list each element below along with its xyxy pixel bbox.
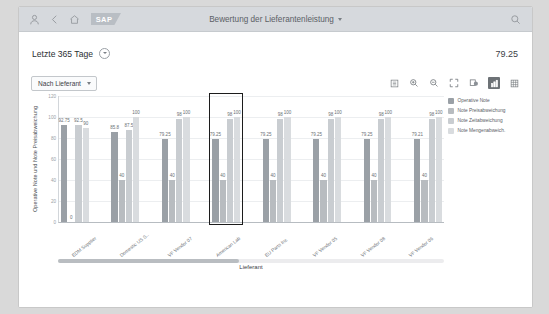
bar-value-label: 100 (334, 110, 342, 115)
legend-item[interactable]: Note Mengenabweich. (448, 128, 520, 134)
bar[interactable]: 79.25 (263, 139, 269, 222)
bar[interactable]: 40 (169, 180, 175, 222)
bar[interactable]: 40 (270, 180, 276, 222)
bar[interactable]: 90 (83, 128, 89, 223)
bar[interactable]: 40 (421, 180, 427, 222)
bar-value-label: 92.75 (58, 118, 69, 123)
bar-value-label: 79.25 (260, 132, 271, 137)
bar-value-label: 40 (220, 173, 225, 178)
bar-group[interactable]: 79.254098100 (162, 96, 190, 222)
bar[interactable]: 98 (429, 119, 435, 222)
bar[interactable]: 79.21 (414, 139, 420, 222)
chart-scrollbar-track[interactable] (58, 259, 444, 263)
bar[interactable]: 98 (277, 119, 283, 222)
bar-value-label: 40 (371, 173, 376, 178)
bar-value-label: 0 (70, 215, 73, 220)
drilldown-icon[interactable] (468, 77, 480, 89)
x-tick-label: EU Parts Inc (263, 237, 287, 258)
bar-value-label: 90 (83, 121, 88, 126)
bar[interactable]: 79.25 (313, 139, 319, 222)
dimension-dropdown[interactable]: Nach Lieferant (31, 76, 97, 91)
bar-value-label: 98 (278, 112, 283, 117)
bar-groups: 92.75092.59085.84087.510079.25409810079.… (59, 96, 444, 222)
bar[interactable]: 98 (227, 119, 233, 222)
bar[interactable]: 79.25 (162, 139, 168, 222)
sap-logo-text: SAP (96, 15, 113, 24)
bar[interactable]: 92.75 (61, 125, 67, 222)
home-icon[interactable] (69, 14, 80, 25)
x-tick-label: VF Vendor 05 (312, 236, 338, 258)
legend-swatch (448, 128, 454, 134)
legend-swatch (448, 108, 454, 114)
bar[interactable]: 98 (176, 119, 182, 222)
bar-value-label: 100 (284, 110, 292, 115)
bar[interactable]: 100 (183, 117, 189, 222)
bar[interactable]: 92.5 (75, 125, 81, 222)
bar-value-label: 87.5 (125, 123, 134, 128)
sap-logo[interactable]: SAP (91, 13, 121, 25)
x-axis-labels: EDM SupplierDomestic US S..VF Vendor 07A… (58, 224, 444, 258)
bar-value-label: 100 (435, 110, 443, 115)
zoom-in-icon[interactable] (408, 77, 420, 89)
bar[interactable]: 40 (320, 180, 326, 222)
bar[interactable]: 79.25 (364, 139, 370, 222)
legend-list-icon[interactable] (388, 77, 400, 89)
zoom-out-icon[interactable] (428, 77, 440, 89)
bar[interactable]: 85.8 (111, 132, 117, 222)
kpi-value: 79.25 (495, 49, 518, 59)
bar-value-label: 100 (233, 110, 241, 115)
x-axis-title: Lieferant (58, 264, 444, 270)
bar-value-label: 100 (183, 110, 191, 115)
bar[interactable]: 100 (335, 117, 341, 222)
table-view-icon[interactable] (508, 77, 520, 89)
bar-value-label: 98 (227, 112, 232, 117)
legend-item[interactable]: Note Preisabweichung (448, 108, 520, 114)
bar[interactable]: 100 (385, 117, 391, 222)
bar-value-label: 79.21 (412, 132, 423, 137)
plot-area: 92.75092.59085.84087.510079.25409810079.… (58, 96, 444, 223)
person-icon[interactable] (29, 14, 40, 25)
bar[interactable]: 79.25 (212, 139, 218, 222)
bar[interactable]: 98 (378, 119, 384, 222)
legend-item[interactable]: Operative Note (448, 98, 520, 104)
bar-group[interactable]: 79.254098100 (212, 96, 240, 222)
period-label: Letzte 365 Tage (32, 49, 93, 59)
x-tick-label: VF Vendor 08 (360, 236, 386, 258)
bar-value-label: 98 (379, 112, 384, 117)
bar-group[interactable]: 85.84087.5100 (111, 96, 139, 222)
search-icon[interactable] (510, 14, 521, 25)
bar[interactable]: 100 (133, 117, 139, 222)
bar-value-label: 40 (321, 173, 326, 178)
bar[interactable]: 100 (284, 117, 290, 222)
dimension-dropdown-label: Nach Lieferant (38, 80, 81, 87)
bar[interactable]: 40 (220, 180, 226, 222)
bar-value-label: 100 (385, 110, 393, 115)
bar-value-label: 100 (132, 110, 140, 115)
shell-bar: SAP Bewertung der Lieferantenleistung (19, 7, 532, 32)
bar-chart-icon[interactable] (488, 77, 500, 89)
legend-item[interactable]: Note Zeitabweichung (448, 118, 520, 124)
y-tick-label: 120 (48, 94, 56, 99)
legend-label: Note Zeitabweichung (458, 118, 503, 123)
bar[interactable]: 87.5 (126, 130, 132, 222)
bar-group[interactable]: 79.254098100 (313, 96, 341, 222)
bar[interactable]: 98 (328, 119, 334, 222)
bar-group[interactable]: 79.254098100 (364, 96, 392, 222)
fullscreen-icon[interactable] (448, 77, 460, 89)
bar[interactable]: 100 (436, 117, 442, 222)
bar[interactable]: 40 (371, 180, 377, 222)
bar-group[interactable]: 92.75092.590 (61, 96, 89, 222)
bar-value-label: 92.5 (74, 118, 83, 123)
legend-label: Operative Note (458, 98, 490, 103)
bar[interactable]: 40 (119, 180, 125, 222)
bar-group[interactable]: 79.254098100 (263, 96, 291, 222)
bar-value-label: 98 (177, 112, 182, 117)
bar-value-label: 79.25 (311, 132, 322, 137)
bar[interactable]: 100 (234, 117, 240, 222)
bar-group[interactable]: 79.214098100 (414, 96, 442, 222)
chart-scrollbar-thumb[interactable] (58, 259, 239, 263)
bar-value-label: 40 (170, 173, 175, 178)
back-chevron-icon[interactable] (49, 14, 60, 25)
chevron-down-icon[interactable] (338, 18, 342, 21)
period-dropdown-button[interactable] (99, 48, 110, 59)
